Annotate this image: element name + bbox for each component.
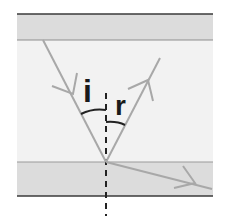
upper-band [17, 14, 213, 40]
incidence-angle-label: i [83, 73, 92, 109]
reflection-angle-label: r [115, 90, 126, 121]
ray-diagram: i r [0, 0, 230, 216]
